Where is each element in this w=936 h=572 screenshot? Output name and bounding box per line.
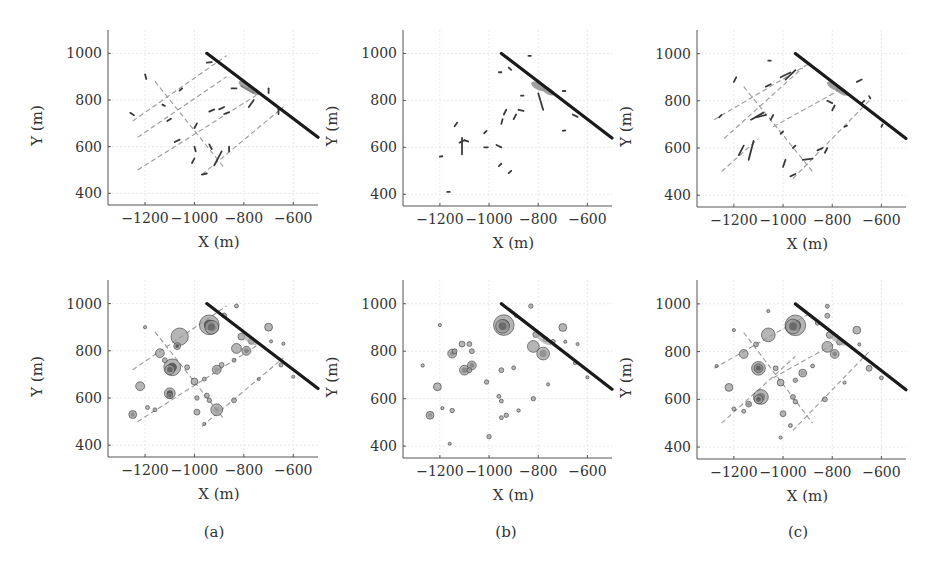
panel-a-bottom: 4006008001000−1200−1000−800−600X (m)Y (m…	[28, 280, 318, 503]
y-tick-label: 400	[370, 186, 397, 202]
y-axis-label: Y (m)	[28, 356, 46, 398]
x-tick-label: −800	[519, 211, 557, 227]
microseismic-events	[421, 304, 589, 445]
x-tick-label: −1200	[710, 212, 757, 228]
y-axis-label: Y (m)	[617, 106, 635, 148]
y-tick-label: 800	[664, 344, 691, 360]
y-tick-label: 1000	[655, 296, 691, 312]
y-tick-label: 800	[664, 93, 691, 109]
y-tick-label: 400	[664, 439, 691, 455]
axes: 4006008001000−1200−1000−800−600X (m)Y (m…	[28, 30, 318, 251]
x-tick-label: −1000	[759, 212, 806, 228]
x-tick-label: −1200	[121, 210, 168, 226]
y-tick-label: 600	[75, 390, 102, 406]
y-tick-label: 1000	[66, 296, 102, 312]
x-tick-label: −1200	[416, 211, 463, 227]
microseismic-events	[440, 56, 578, 192]
well-trajectories	[133, 56, 284, 175]
y-tick-label: 1000	[655, 46, 691, 62]
panel-label-a: (a)	[204, 523, 225, 541]
x-axis-label: X (m)	[198, 485, 239, 503]
y-tick-label: 400	[664, 187, 691, 203]
y-tick-label: 400	[370, 438, 397, 454]
fault-line	[207, 304, 318, 389]
x-tick-label: −800	[225, 210, 263, 226]
y-tick-label: 600	[664, 391, 691, 407]
axes: 4006008001000−1200−1000−800−600X (m)Y (m…	[617, 30, 906, 253]
microseismic-events	[719, 61, 883, 177]
panel-c-bottom: 4006008001000−1200−1000−800−600X (m)Y (m…	[617, 280, 906, 505]
y-axis-label: Y (m)	[28, 105, 46, 147]
figure: 4006008001000−1200−1000−800−600X (m)Y (m…	[0, 0, 936, 572]
x-tick-label: −800	[813, 464, 851, 480]
x-tick-label: −600	[862, 212, 900, 228]
x-axis-label: X (m)	[787, 487, 828, 505]
y-tick-label: 400	[75, 437, 102, 453]
x-tick-label: −600	[568, 463, 606, 479]
x-tick-label: −1000	[171, 462, 218, 478]
panel-b-bottom: 4006008001000−1200−1000−800−600X (m)Y (m…	[323, 280, 612, 504]
panel-b-top: 4006008001000−1200−1000−800−600X (m)Y (m…	[323, 30, 612, 252]
y-axis-label: Y (m)	[323, 357, 341, 399]
microseismic-events	[129, 304, 295, 426]
y-tick-label: 800	[370, 92, 397, 108]
fault-line	[501, 53, 612, 137]
x-tick-label: −1000	[465, 211, 512, 227]
y-tick-label: 800	[75, 343, 102, 359]
x-tick-label: −1000	[759, 464, 806, 480]
x-tick-label: −600	[568, 211, 606, 227]
y-tick-label: 400	[75, 185, 102, 201]
microseismic-events	[130, 62, 278, 174]
scatter-figure-canvas: 4006008001000−1200−1000−800−600X (m)Y (m…	[0, 0, 936, 572]
panel-label-b: (b)	[495, 523, 516, 541]
y-tick-label: 600	[370, 391, 397, 407]
x-tick-label: −600	[274, 462, 312, 478]
x-axis-label: X (m)	[787, 235, 828, 253]
fault-line	[795, 54, 906, 139]
fault-line	[501, 304, 612, 389]
axes: 4006008001000−1200−1000−800−600X (m)Y (m…	[323, 280, 612, 504]
x-tick-label: −600	[862, 464, 900, 480]
x-tick-label: −1200	[416, 463, 463, 479]
y-tick-label: 800	[75, 92, 102, 108]
microseismic-events	[715, 304, 883, 439]
x-axis-label: X (m)	[493, 486, 534, 504]
x-axis-label: X (m)	[198, 233, 239, 251]
x-tick-label: −1200	[710, 464, 757, 480]
y-tick-label: 1000	[361, 296, 397, 312]
x-tick-label: −1000	[465, 463, 512, 479]
y-axis-label: Y (m)	[617, 357, 635, 399]
x-tick-label: −800	[813, 212, 851, 228]
y-tick-label: 600	[664, 140, 691, 156]
panel-c-top: 4006008001000−1200−1000−800−600X (m)Y (m…	[617, 30, 906, 253]
y-axis-label: Y (m)	[323, 106, 341, 148]
fault-line	[795, 304, 906, 390]
x-tick-label: −600	[274, 210, 312, 226]
x-axis-label: X (m)	[493, 234, 534, 252]
panel-a-top: 4006008001000−1200−1000−800−600X (m)Y (m…	[28, 30, 318, 251]
y-tick-label: 1000	[66, 45, 102, 61]
y-tick-label: 800	[370, 343, 397, 359]
panel-label-c: (c)	[788, 523, 808, 541]
fault-line	[207, 53, 318, 137]
x-tick-label: −1000	[171, 210, 218, 226]
x-tick-label: −1200	[121, 462, 168, 478]
y-tick-label: 600	[75, 139, 102, 155]
x-tick-label: −800	[225, 462, 263, 478]
well-trajectories	[714, 63, 869, 179]
y-tick-label: 600	[370, 139, 397, 155]
x-tick-label: −800	[519, 463, 557, 479]
y-tick-label: 1000	[361, 45, 397, 61]
